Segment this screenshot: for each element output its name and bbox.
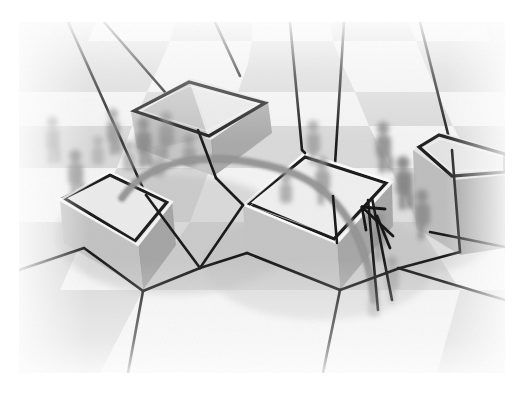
scene-render (0, 0, 527, 396)
scene-canvas: 3D perspective visualization of boxed re… (0, 0, 527, 396)
film-grain (19, 22, 505, 373)
scene-content (19, 22, 505, 373)
